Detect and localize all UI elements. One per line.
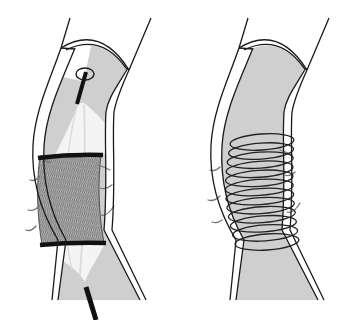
stent-diagram [0, 0, 349, 320]
tissue-flap [212, 220, 222, 223]
stent-marker-band [40, 243, 106, 245]
right-panel-coil-stent [208, 18, 329, 300]
left-panel-balloon-stent [26, 18, 151, 320]
tissue-flap [26, 226, 36, 231]
diagram-stage [0, 0, 349, 320]
mesh-stent [38, 155, 104, 245]
